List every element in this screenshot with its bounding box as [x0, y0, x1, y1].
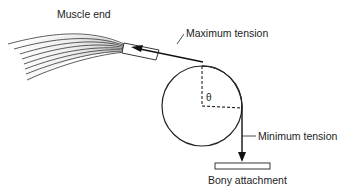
arrowhead-down-icon: [238, 152, 246, 162]
label-maximum-tension: Maximum tension: [186, 28, 268, 39]
max-tension-leader: [177, 34, 184, 44]
pulley-diagram: [0, 0, 345, 192]
label-muscle-end: Muscle end: [57, 9, 111, 20]
label-theta: θ: [206, 93, 212, 103]
bony-attachment-bar: [215, 163, 270, 169]
muscle-fibers: [8, 34, 126, 82]
label-bony-attachment: Bony attachment: [208, 175, 287, 186]
label-minimum-tension: Minimum tension: [258, 131, 337, 142]
